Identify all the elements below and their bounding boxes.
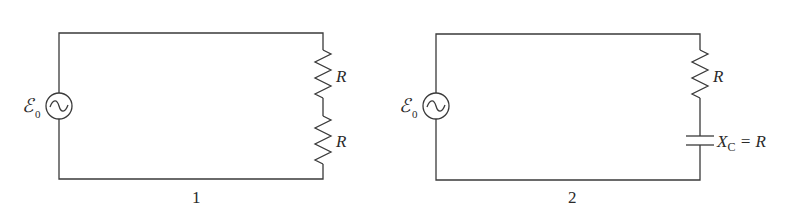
resistor-icon xyxy=(315,50,331,98)
resistor-2-label: R xyxy=(335,132,347,151)
emf-symbol: ℰ xyxy=(22,95,36,116)
resistor-icon xyxy=(692,50,708,98)
circuit-2-caption: 2 xyxy=(568,188,577,207)
capacitor-icon xyxy=(686,136,714,145)
circuit-1-caption: 1 xyxy=(192,188,201,207)
capacitor-label: XC = R xyxy=(716,132,766,154)
circuit-1-wire-loop xyxy=(59,33,323,179)
circuit-diagrams: ℰ 0 R R 1 ℰ 0 R XC = R 2 xyxy=(0,0,795,214)
resistor-icon xyxy=(315,116,331,164)
resistor-label: R xyxy=(712,67,724,86)
circuit-2-wire-loop xyxy=(436,34,700,180)
circuit-1: ℰ 0 R R 1 xyxy=(22,33,347,207)
emf-subscript: 0 xyxy=(35,108,41,120)
emf-subscript: 0 xyxy=(412,108,418,120)
ac-source-icon xyxy=(46,93,72,119)
emf-symbol: ℰ xyxy=(399,95,413,116)
ac-source-icon xyxy=(423,93,449,119)
circuit-2: ℰ 0 R XC = R 2 xyxy=(399,34,766,207)
resistor-1-label: R xyxy=(335,67,347,86)
